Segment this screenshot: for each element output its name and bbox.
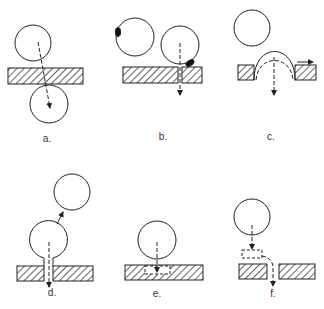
membrane-bar (295, 65, 316, 80)
panel-label-e: e. (153, 288, 161, 299)
diagram-svg (0, 0, 324, 309)
particle-circle (116, 18, 154, 56)
panel-b (116, 18, 203, 95)
diagram-canvas: a. b. c. d. e. f. (0, 0, 324, 309)
panel-label-f: f. (270, 288, 276, 299)
attached-blob (116, 28, 121, 37)
membrane-bar (17, 266, 44, 281)
dashed-pocket (242, 250, 262, 258)
particle-circle (138, 221, 176, 259)
particle-circle (54, 174, 90, 210)
attached-blob (185, 58, 195, 67)
membrane-bar (238, 65, 254, 80)
particle-circle (15, 25, 51, 61)
panel-label-b: b. (159, 131, 167, 142)
panel-f (234, 199, 315, 286)
particle-circle (234, 10, 270, 46)
panel-a (8, 25, 83, 123)
panel-label-a: a. (43, 133, 51, 144)
membrane-bar (8, 68, 83, 84)
membrane-bar (279, 264, 315, 279)
particle-circle (234, 199, 270, 235)
panel-c (234, 10, 316, 95)
release-arrow-icon (57, 212, 63, 224)
panel-d (17, 174, 93, 287)
panel-e (125, 221, 203, 280)
membrane-bar (123, 67, 178, 83)
membrane-bar (239, 264, 267, 279)
panel-label-c: c. (267, 131, 275, 142)
membrane-bar (53, 266, 93, 281)
panel-label-d: d. (48, 287, 56, 298)
membrane-bar (182, 67, 202, 83)
